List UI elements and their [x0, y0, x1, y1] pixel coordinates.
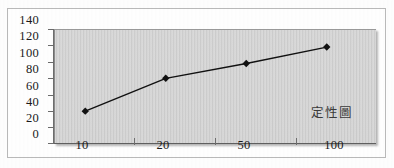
y-axis-tick-label: 120 [5, 30, 39, 43]
x-axis-tick-label: 50 [237, 139, 250, 152]
series-line-definitive [54, 29, 376, 144]
y-axis-tick-label: 40 [5, 96, 39, 109]
y-axis-tick-label: 140 [5, 14, 39, 27]
y-axis-tick-label: 80 [5, 63, 39, 76]
x-axis-tick-label: 20 [156, 139, 169, 152]
series-annotation-label: 定性圖 [311, 106, 353, 119]
y-axis-tick-label: 20 [5, 112, 39, 125]
y-axis-tick-label: 100 [5, 47, 39, 60]
x-axis-tick-labels: 10 20 50 100 [46, 139, 368, 159]
chart-figure: 定性圖 140 120 100 80 60 40 20 0 10 20 50 1… [0, 0, 394, 168]
y-axis-tick-label: 60 [5, 80, 39, 93]
figure-frame: 定性圖 [7, 8, 386, 158]
y-axis-tick-label: 0 [5, 128, 39, 141]
x-axis-tick-label: 10 [75, 139, 88, 152]
x-axis-tick-label: 100 [324, 139, 344, 152]
y-axis-tick-labels: 140 120 100 80 60 40 20 0 [0, 0, 39, 168]
